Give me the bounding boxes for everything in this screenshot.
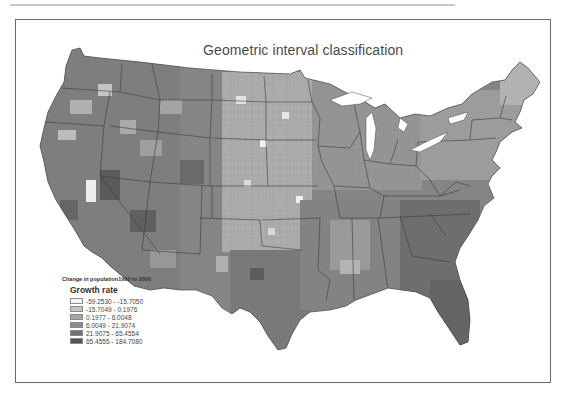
legend-label: -59.2530 - -15.7050	[86, 298, 143, 305]
legend-swatch	[70, 314, 83, 320]
legend-swatch	[70, 306, 83, 312]
legend-item: -15.7049 - 0.1976	[70, 305, 151, 313]
legend-label: 21.9075 - 65.4554	[86, 330, 139, 337]
legend-swatch	[70, 322, 83, 328]
legend-swatch	[70, 338, 83, 344]
legend-label: -15.7049 - 0.1976	[86, 306, 137, 313]
legend: Change in population1990 to 2000 Growth …	[62, 276, 151, 345]
legend-label: 6.0049 - 21.9074	[86, 322, 135, 329]
legend-heading: Growth rate	[70, 285, 151, 295]
legend-label: 0.1977 - 6.0048	[86, 314, 132, 321]
map-title: Geometric interval classification	[203, 42, 403, 58]
legend-swatch	[70, 330, 83, 336]
legend-item: 0.1977 - 6.0048	[70, 313, 151, 321]
legend-item: 21.9075 - 65.4554	[70, 329, 151, 337]
legend-swatch	[70, 298, 83, 304]
legend-item: 65.4555 - 184.7080	[70, 337, 151, 345]
legend-caption: Change in population1990 to 2000	[62, 276, 151, 282]
legend-item: 6.0049 - 21.9074	[70, 321, 151, 329]
legend-label: 65.4555 - 184.7080	[86, 338, 142, 345]
legend-item: -59.2530 - -15.7050	[70, 297, 151, 305]
